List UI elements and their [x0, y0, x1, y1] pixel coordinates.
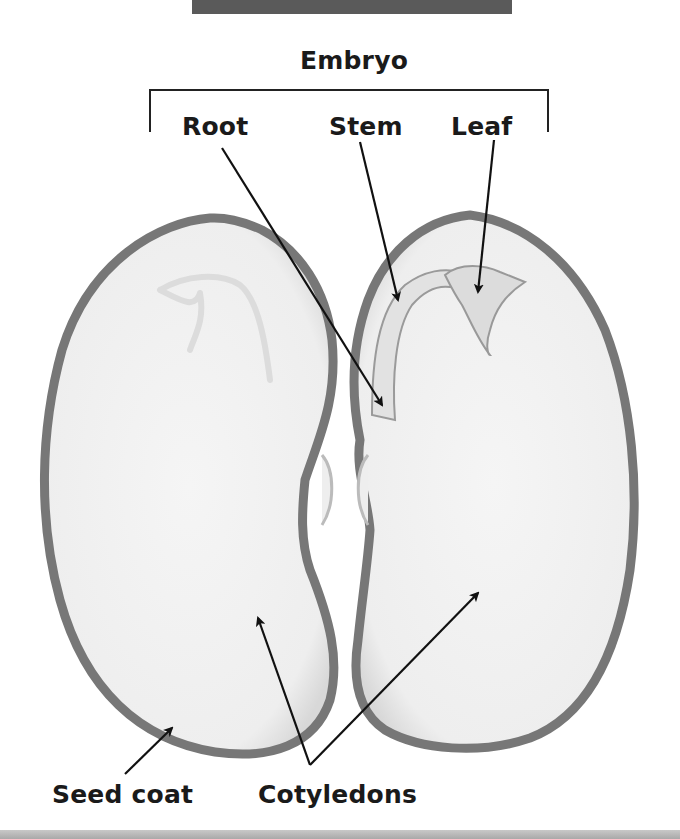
left-cotyledon [44, 218, 333, 754]
root-label: Root [182, 112, 248, 141]
seed-coat-label: Seed coat [52, 780, 193, 809]
cotyledons-label: Cotyledons [258, 780, 417, 809]
embryo-label: Embryo [300, 46, 408, 75]
seed-coat-arrow [125, 728, 172, 774]
footer-bar [0, 830, 680, 839]
stem-label: Stem [329, 112, 403, 141]
leaf-label: Leaf [451, 112, 512, 141]
